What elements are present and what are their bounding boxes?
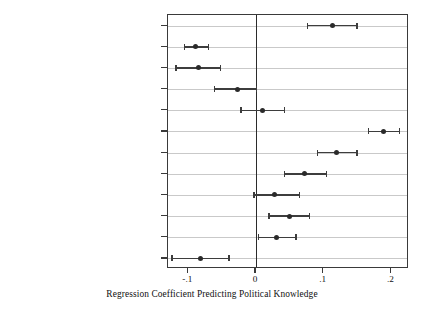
- x-axis-tick-label: 0: [253, 274, 258, 285]
- x-axis-tick: [390, 268, 391, 273]
- x-axis-tick: [254, 268, 255, 273]
- y-axis-tick: [161, 130, 167, 131]
- y-axis-tick: [161, 109, 167, 110]
- y-axis-tick: [161, 67, 167, 68]
- y-axis-tick: [161, 194, 167, 195]
- x-axis-tick: [187, 268, 188, 273]
- y-axis-tick: [161, 25, 167, 26]
- y-axis-labels: Age (in years)Female (0, 1)Black (0, 1)H…: [0, 0, 424, 316]
- x-axis-tick-label: -.1: [182, 274, 192, 285]
- x-axis-tick-label: .1: [319, 274, 326, 285]
- y-axis-tick: [161, 236, 167, 237]
- y-axis-tick: [161, 152, 167, 153]
- x-axis-tick: [322, 268, 323, 273]
- x-axis-title: Regression Coefficient Predicting Politi…: [0, 289, 424, 299]
- y-axis-tick: [161, 215, 167, 216]
- coefficient-plot-figure: Age (in years)Female (0, 1)Black (0, 1)H…: [0, 0, 424, 316]
- y-axis-tick: [161, 88, 167, 89]
- y-axis-tick: [161, 46, 167, 47]
- y-axis-tick: [161, 257, 167, 258]
- x-axis-tick-label: .2: [387, 274, 394, 285]
- y-axis-tick: [161, 173, 167, 174]
